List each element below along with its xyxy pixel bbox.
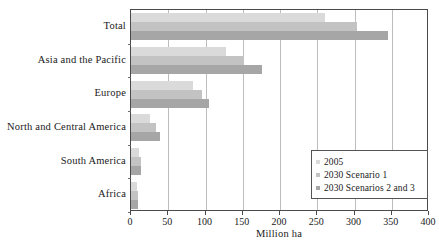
y-axis-tick [128,145,131,146]
bar [131,148,139,157]
x-axis-tick-label: 250 [309,216,324,227]
y-axis-label: Asia and the Pacific [0,54,126,65]
bar [131,191,138,200]
x-axis-tick-150 [242,211,243,215]
x-axis-tick-300 [354,211,355,215]
y-axis-label: Europe [0,87,126,98]
legend-swatch [316,186,320,190]
x-axis-tick-250 [316,211,317,215]
y-axis-tick [128,111,131,112]
x-axis-tick-label: 0 [128,216,133,227]
bar [131,182,137,191]
bar [131,90,202,99]
bar-group [131,81,427,108]
x-axis-tick-label: 350 [383,216,398,227]
y-axis-label: North and Central America [0,121,126,132]
bar-group [131,47,427,74]
x-axis-tick-label: 300 [346,216,361,227]
legend: 20052030 Scenario 12030 Scenarios 2 and … [311,150,428,199]
y-axis-labels: TotalAsia and the PacificEuropeNorth and… [0,9,126,211]
x-axis-tick-100 [205,211,206,215]
y-axis-label: Africa [0,188,126,199]
bar [131,114,150,123]
bar [131,22,357,31]
legend-label: 2030 Scenario 1 [324,170,387,180]
x-axis-title: Million ha [130,228,428,239]
bar [131,13,325,22]
bar [131,31,388,40]
x-axis-tick-0 [130,211,131,215]
bar [131,200,138,209]
x-axis-tick-label: 50 [162,216,172,227]
x-axis-tick-label: 100 [197,216,212,227]
x-axis-tick-label: 200 [272,216,287,227]
x-axis-tick-label: 400 [421,216,436,227]
bar [131,166,141,175]
x-axis-tick-label: 150 [234,216,249,227]
x-axis-tick-400 [428,211,429,215]
bar [131,65,262,74]
y-axis-tick [128,44,131,45]
bar [131,56,244,65]
y-axis-tick [128,77,131,78]
x-axis-tick-200 [279,211,280,215]
bar [131,123,156,132]
bar [131,132,160,141]
legend-item: 2005 [316,155,424,168]
bar [131,81,193,90]
bar [131,99,209,108]
legend-label: 2005 [324,157,343,167]
bar-group [131,13,427,40]
bar-chart: TotalAsia and the PacificEuropeNorth and… [0,0,439,248]
legend-swatch [316,173,320,177]
legend-item: 2030 Scenario 1 [316,168,424,181]
legend-label: 2030 Scenarios 2 and 3 [324,183,415,193]
bar-group [131,114,427,141]
y-axis-label: South America [0,155,126,166]
legend-swatch [316,160,320,164]
x-axis-tick-50 [167,211,168,215]
y-axis-label: Total [0,20,126,31]
bar [131,157,141,166]
bar [131,47,226,56]
y-axis-tick [128,178,131,179]
x-axis-tick-350 [391,211,392,215]
legend-item: 2030 Scenarios 2 and 3 [316,181,424,194]
